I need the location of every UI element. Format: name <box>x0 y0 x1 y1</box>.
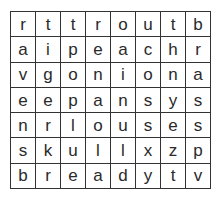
letter-cell: v <box>186 164 211 189</box>
letter-cell: a <box>11 37 36 62</box>
letter-cell: i <box>36 37 61 62</box>
letter-cell: t <box>161 12 186 37</box>
letter-cell: b <box>11 164 36 189</box>
letter-cell: u <box>61 138 86 163</box>
letter-cell: h <box>161 37 186 62</box>
letter-cell: e <box>11 88 36 113</box>
letter-cell: d <box>111 164 136 189</box>
letter-cell: n <box>86 63 111 88</box>
letter-cell: l <box>86 138 111 163</box>
letter-cell: b <box>186 12 211 37</box>
letter-cell: k <box>36 138 61 163</box>
letter-cell: y <box>136 164 161 189</box>
letter-cell: e <box>86 37 111 62</box>
letter-cell: z <box>161 138 186 163</box>
letter-cell: o <box>86 113 111 138</box>
letter-cell: e <box>61 164 86 189</box>
letter-cell: p <box>61 37 86 62</box>
letter-cell: s <box>136 88 161 113</box>
letter-cell: c <box>136 37 161 62</box>
letter-cell: u <box>111 113 136 138</box>
letter-cell: s <box>136 113 161 138</box>
letter-cell: t <box>36 12 61 37</box>
letter-cell: o <box>61 63 86 88</box>
letter-cell: a <box>86 164 111 189</box>
letter-cell: t <box>161 164 186 189</box>
letter-cell: o <box>136 63 161 88</box>
letter-cell: n <box>11 113 36 138</box>
letter-cell: s <box>186 88 211 113</box>
letter-cell: a <box>86 88 111 113</box>
letter-cell: x <box>136 138 161 163</box>
letter-cell: t <box>61 12 86 37</box>
letter-cell: v <box>11 63 36 88</box>
letter-cell: s <box>11 138 36 163</box>
letter-cell: p <box>186 138 211 163</box>
letter-cell: r <box>86 12 111 37</box>
letter-cell: o <box>111 12 136 37</box>
letter-cell: r <box>36 113 61 138</box>
letter-cell: n <box>161 63 186 88</box>
letter-cell: n <box>111 88 136 113</box>
letter-cell: y <box>161 88 186 113</box>
letter-cell: e <box>36 88 61 113</box>
letter-cell: a <box>186 63 211 88</box>
letter-cell: r <box>11 12 36 37</box>
letter-cell: p <box>61 88 86 113</box>
letter-cell: r <box>186 37 211 62</box>
letter-cell: a <box>111 37 136 62</box>
letter-cell: l <box>61 113 86 138</box>
letter-cell: l <box>111 138 136 163</box>
word-search-grid: rttroutbaipeachrvgonionaeepansysnrlouses… <box>10 11 211 189</box>
letter-cell: r <box>36 164 61 189</box>
letter-cell: u <box>136 12 161 37</box>
letter-cell: e <box>161 113 186 138</box>
letter-cell: g <box>36 63 61 88</box>
letter-cell: i <box>111 63 136 88</box>
letter-cell: s <box>186 113 211 138</box>
